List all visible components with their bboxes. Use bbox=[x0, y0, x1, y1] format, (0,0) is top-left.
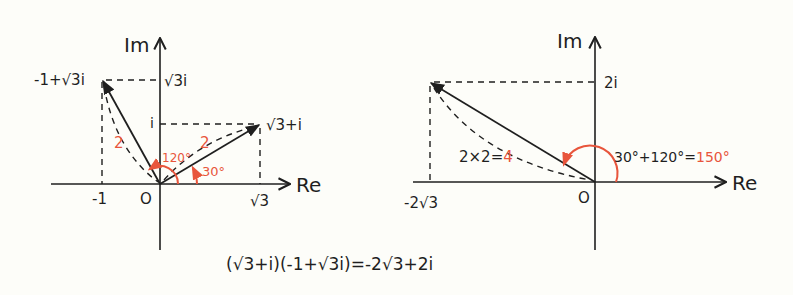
point-a-label: -1+√3i bbox=[34, 71, 85, 89]
left-re-label: Re bbox=[296, 173, 321, 197]
right-diagram: Im Re O 2i -2√3 2×2=4 30°+120°=150° bbox=[404, 29, 757, 250]
length-product-label: 2×2=4 bbox=[459, 148, 513, 166]
tick-neg1: -1 bbox=[92, 190, 107, 208]
length-a-label: 2 bbox=[114, 134, 124, 152]
right-re-label: Re bbox=[732, 171, 757, 195]
point-b-label: √3+i bbox=[266, 116, 302, 134]
angle-120-label: 120° bbox=[162, 151, 191, 165]
tick-2i: 2i bbox=[604, 74, 618, 92]
tick-i: i bbox=[150, 115, 154, 131]
angle-arc-30 bbox=[193, 168, 197, 184]
length-b-label: 2 bbox=[200, 134, 210, 152]
left-dashed-guides bbox=[102, 80, 260, 184]
right-im-label: Im bbox=[557, 29, 582, 53]
tick-sqrt3i: √3i bbox=[164, 72, 187, 90]
left-im-label: Im bbox=[124, 33, 149, 57]
left-origin-label: O bbox=[140, 190, 152, 208]
right-origin-label: O bbox=[578, 189, 590, 207]
product-equation: (√3+i)(-1+√3i)=-2√3+2i bbox=[226, 254, 433, 274]
tick-neg2sqrt3: -2√3 bbox=[404, 194, 438, 212]
vector-product bbox=[431, 83, 595, 182]
angle-sum-label: 30°+120°=150° bbox=[614, 149, 730, 165]
left-diagram: Im Re O -1+√3i √3+i √3i i -1 √3 2 2 120°… bbox=[34, 33, 321, 250]
tick-sqrt3: √3 bbox=[250, 192, 269, 210]
complex-multiplication-diagram: Im Re O -1+√3i √3+i √3i i -1 √3 2 2 120°… bbox=[0, 0, 793, 295]
angle-30-label: 30° bbox=[202, 164, 225, 179]
